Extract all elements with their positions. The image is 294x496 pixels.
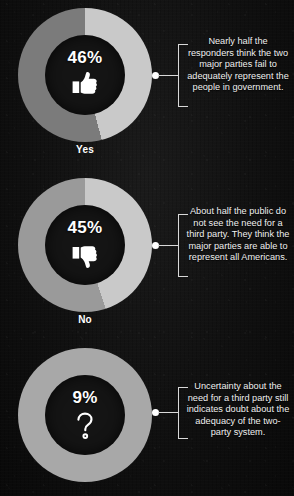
thumbs-up-icon [68, 68, 102, 102]
question-mark-icon [68, 408, 102, 442]
callout-unsure: Uncertainty about the need for a third p… [152, 376, 290, 468]
donut-chart-unsure: 9% [18, 348, 152, 482]
donut-chart-yes: 46% [18, 8, 152, 142]
callout-text-no: About half the public do not see the nee… [186, 206, 290, 264]
callout-leader-line [158, 245, 179, 246]
thumbs-down-icon [68, 238, 102, 272]
callout-text-unsure: Uncertainty about the need for a third p… [186, 381, 290, 439]
donut-value-yes: 46% [68, 49, 103, 66]
donut-chart-no: 45% [18, 178, 152, 312]
callout-leader-line [158, 75, 179, 76]
donut-center-yes: 46% [45, 35, 125, 115]
donut-label-no: No [18, 314, 152, 325]
donut-label-yes: Yes [18, 144, 152, 155]
donut-center-unsure: 9% [45, 375, 125, 455]
donut-value-no: 45% [68, 219, 103, 236]
callout-text-yes: Nearly half the responders think the two… [186, 36, 290, 94]
donut-center-no: 45% [45, 205, 125, 285]
callout-leader-line [158, 412, 179, 413]
donut-value-unsure: 9% [72, 389, 97, 406]
callout-yes: Nearly half the responders think the two… [152, 30, 290, 122]
callout-no: About half the public do not see the nee… [152, 200, 290, 292]
